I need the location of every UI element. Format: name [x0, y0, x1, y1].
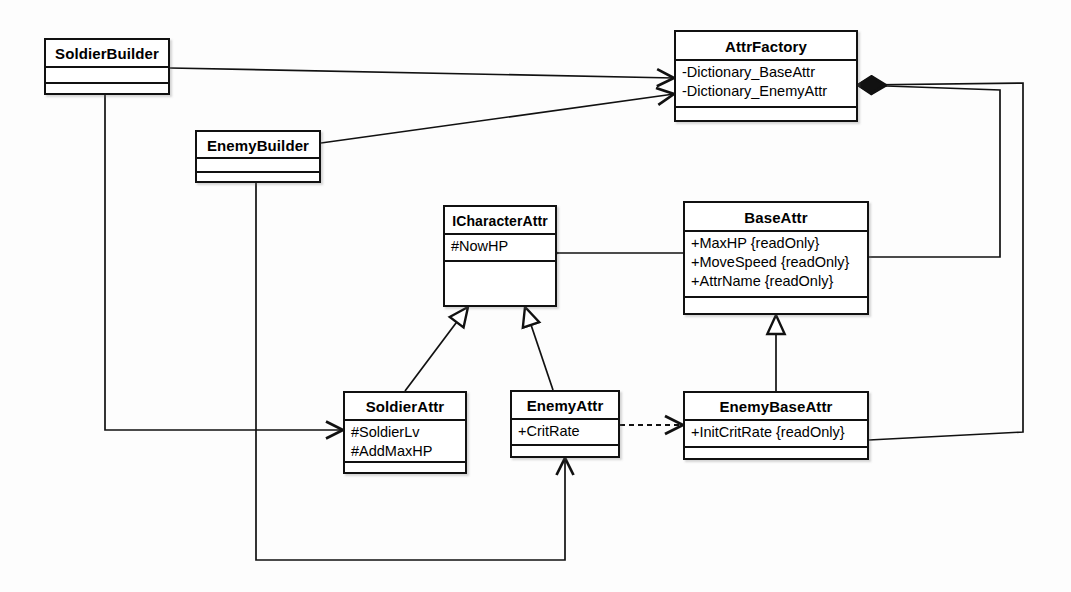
class-name-soldier-builder: SoldierBuilder [46, 40, 168, 66]
relationship-generalization[interactable] [525, 307, 553, 390]
class-box-soldier-attr[interactable]: SoldierAttr #SoldierLv #AddMaxHP [343, 391, 467, 474]
relationship-association[interactable] [170, 68, 674, 78]
class-name-enemy-base-attr: EnemyBaseAttr [685, 393, 867, 419]
class-box-enemy-attr[interactable]: EnemyAttr +CritRate [510, 390, 620, 458]
class-attributes-soldier-attr: #SoldierLv #AddMaxHP [345, 419, 465, 461]
class-attributes-soldier-builder [46, 66, 168, 82]
class-name-soldier-attr: SoldierAttr [345, 393, 465, 419]
class-attributes-base-attr: +MaxHP {readOnly} +MoveSpeed {readOnly} … [685, 230, 867, 296]
attribute-item: #NowHP [451, 237, 552, 256]
class-operations-enemy-base-attr [685, 446, 867, 460]
attribute-item: -Dictionary_BaseAttr [682, 63, 853, 82]
class-operations-soldier-attr [345, 461, 465, 476]
class-box-enemy-base-attr[interactable]: EnemyBaseAttr +InitCritRate {readOnly} [683, 391, 869, 460]
class-name-attr-factory: AttrFactory [676, 32, 856, 59]
class-operations-icharacter-attr [445, 260, 555, 305]
class-operations-soldier-builder [46, 82, 168, 95]
class-name-enemy-attr: EnemyAttr [512, 392, 618, 418]
uml-class-diagram: SoldierBuilder EnemyBuilder AttrFactory … [0, 0, 1071, 592]
attribute-item: #AddMaxHP [351, 442, 462, 461]
class-box-soldier-builder[interactable]: SoldierBuilder [44, 38, 170, 95]
class-attributes-enemy-attr: +CritRate [512, 418, 618, 444]
class-operations-enemy-attr [512, 444, 618, 458]
attribute-item: #SoldierLv [351, 423, 462, 442]
class-operations-base-attr [685, 296, 867, 313]
class-name-enemy-builder: EnemyBuilder [197, 132, 319, 157]
class-name-icharacter-attr: ICharacterAttr [445, 207, 555, 233]
class-attributes-enemy-builder [197, 157, 319, 171]
relationship-association[interactable] [321, 94, 674, 143]
class-box-base-attr[interactable]: BaseAttr +MaxHP {readOnly} +MoveSpeed {r… [683, 201, 869, 315]
class-box-icharacter-attr[interactable]: ICharacterAttr #NowHP [443, 205, 557, 307]
attribute-item: +InitCritRate {readOnly} [691, 423, 864, 442]
class-box-attr-factory[interactable]: AttrFactory -Dictionary_BaseAttr -Dictio… [674, 30, 858, 122]
relationship-composition[interactable] [858, 83, 1023, 440]
relationship-generalization[interactable] [405, 307, 468, 391]
attribute-item: +MoveSpeed {readOnly} [691, 253, 864, 272]
class-name-base-attr: BaseAttr [685, 203, 867, 230]
class-operations-enemy-builder [197, 171, 319, 183]
attribute-item: +CritRate [518, 422, 615, 441]
class-attributes-attr-factory: -Dictionary_BaseAttr -Dictionary_EnemyAt… [676, 59, 856, 106]
relationship-composition[interactable] [858, 85, 1000, 257]
class-operations-attr-factory [676, 106, 856, 122]
attribute-item: -Dictionary_EnemyAttr [682, 82, 853, 101]
attribute-item: +MaxHP {readOnly} [691, 234, 864, 253]
class-box-enemy-builder[interactable]: EnemyBuilder [195, 130, 321, 183]
attribute-item: +AttrName {readOnly} [691, 272, 864, 291]
class-attributes-icharacter-attr: #NowHP [445, 233, 555, 260]
class-attributes-enemy-base-attr: +InitCritRate {readOnly} [685, 419, 867, 446]
